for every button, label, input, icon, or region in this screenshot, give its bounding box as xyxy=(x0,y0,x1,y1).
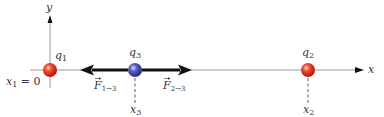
charge-q2-label: q2 xyxy=(302,46,314,60)
svg-text:F1→3: F1→3 xyxy=(93,79,116,93)
charge-q3-sphere xyxy=(128,63,142,77)
charge-q1-label: q1 xyxy=(55,49,67,63)
charge-q3-label: q3 xyxy=(129,46,141,60)
force-arrow-f13 xyxy=(80,65,128,76)
x1-position-label: x1 = 0 xyxy=(6,75,41,89)
diagram-svg: y x q1 q3 q2 x1 = 0 x3 x2 xyxy=(0,0,384,117)
x3-position-label: x3 xyxy=(130,103,141,117)
y-axis-label: y xyxy=(45,1,53,14)
y-axis-arrowhead-icon xyxy=(48,15,53,23)
charge-q1-sphere xyxy=(43,63,57,77)
coulomb-force-diagram: y x q1 q3 q2 x1 = 0 x3 x2 xyxy=(0,0,384,117)
x2-position-label: x2 xyxy=(303,103,314,117)
x-axis-arrowhead-icon xyxy=(355,67,364,73)
force-label-f13: F1→3 xyxy=(93,77,116,93)
svg-text:F2→3: F2→3 xyxy=(162,79,185,93)
force-label-f23: F2→3 xyxy=(162,77,185,93)
x-axis-label: x xyxy=(368,63,375,76)
force-arrow-f23 xyxy=(142,65,192,76)
charge-q2-sphere xyxy=(301,63,315,77)
